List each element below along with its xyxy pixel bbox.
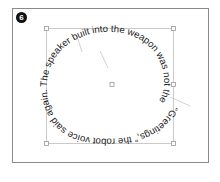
- handle-bottom-left: [45, 142, 49, 146]
- step-number-badge: 6: [16, 12, 27, 23]
- handle-center: [110, 83, 114, 87]
- handle-bottom-right: [172, 142, 176, 146]
- handle-top-left: [45, 27, 49, 31]
- spiral-text-illustration: “Greetings,” the robot voice said again.…: [0, 0, 220, 182]
- figure-canvas: “Greetings,” the robot voice said again.…: [0, 0, 220, 182]
- path-guides: [77, 36, 190, 106]
- spiral-text[interactable]: “Greetings,” the robot voice said again.…: [38, 23, 181, 148]
- handle-top-right: [172, 27, 176, 31]
